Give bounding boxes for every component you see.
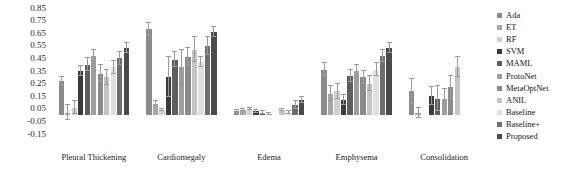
error-bar-cap	[455, 76, 460, 77]
error-bar-cap	[293, 100, 298, 101]
bar-maml-cardiomegaly	[172, 8, 177, 134]
legend-item-baseline: Baseline	[497, 107, 567, 119]
legend-item-label: ANIL	[506, 96, 526, 105]
legend-item-ada: Ada	[497, 9, 567, 21]
error-bar	[411, 79, 412, 104]
error-bar-cap	[328, 100, 333, 101]
bar-group-bars	[400, 8, 488, 134]
x-axis-group-label: Edema	[257, 152, 281, 162]
error-bar-cap	[153, 100, 158, 101]
error-bar	[437, 86, 438, 111]
bar-anil-pleural-thickening	[104, 8, 109, 134]
bar-rf-edema	[247, 8, 252, 134]
y-axis-tick-label: -0.15	[27, 130, 46, 139]
error-bar-cap	[65, 104, 70, 105]
bar-rect	[59, 81, 64, 115]
y-axis-tick-label: 0.35	[30, 67, 46, 76]
error-bar	[174, 52, 175, 67]
error-bar-cap	[166, 56, 171, 57]
error-bar-cap	[198, 56, 203, 57]
error-bar-cap	[322, 75, 327, 76]
error-bar-cap	[78, 75, 83, 76]
bar-anil-cardiomegaly	[192, 8, 197, 134]
bar-ada-consolidation	[409, 8, 414, 134]
legend-item-label: Baseline+	[506, 120, 540, 129]
bar-rect	[124, 48, 129, 115]
bar-rect	[386, 48, 391, 115]
error-bar-cap	[348, 81, 353, 82]
bar-rect	[321, 70, 326, 115]
error-bar-cap	[354, 64, 359, 65]
error-bar-cap	[185, 65, 190, 66]
y-axis-tick-label: 0.85	[30, 4, 46, 13]
y-axis-tick-label: 0.25	[30, 79, 46, 88]
bar-svm-edema	[253, 8, 258, 134]
error-bar-cap	[117, 51, 122, 52]
error-bar-cap	[429, 104, 434, 105]
legend-item-label: ET	[506, 23, 516, 32]
bar-group-bars	[313, 8, 401, 134]
error-bar-cap	[98, 81, 103, 82]
bar-maml-pleural-thickening	[85, 8, 90, 134]
bar-metaoptnet-pleural-thickening	[98, 8, 103, 134]
bar-rf-cardiomegaly	[159, 8, 164, 134]
error-bar-cap	[72, 113, 77, 114]
error-bar-cap	[367, 75, 372, 76]
bar-proposed-cardiomegaly	[211, 8, 216, 134]
legend-item-anil: ANIL	[497, 94, 567, 106]
bar-maml-consolidation	[435, 8, 440, 134]
legend-item-metaoptnet: MetaOptNet	[497, 82, 567, 94]
error-bar-cap	[124, 42, 129, 43]
error-bar-cap	[211, 36, 216, 37]
legend-color-swatch	[497, 37, 502, 42]
bar-proposed-emphysema	[386, 8, 391, 134]
y-axis-tick-label: 0.55	[30, 41, 46, 50]
error-bar-cap	[455, 56, 460, 57]
error-bar-cap	[361, 70, 366, 71]
bar-svm-consolidation	[429, 8, 434, 134]
error-bar	[194, 37, 195, 62]
legend-color-swatch	[497, 49, 502, 54]
legend-item-maml: MAML	[497, 58, 567, 70]
bar-rf-emphysema	[334, 8, 339, 134]
error-bar-cap	[387, 52, 392, 53]
bar-anil-edema	[279, 8, 284, 134]
bar-group: Pleural Thickening	[50, 8, 138, 160]
legend-color-swatch	[497, 98, 502, 103]
legend-color-swatch	[497, 61, 502, 66]
bar-protonet-edema	[266, 8, 271, 134]
bar-baseline-emphysema	[373, 8, 378, 134]
error-bar-cap	[85, 57, 90, 58]
legend-item-label: SVM	[506, 47, 524, 56]
bar-group-bars	[138, 8, 226, 134]
legend-item-proposed: Proposed	[497, 131, 567, 143]
error-bar	[369, 76, 370, 91]
error-bar-cap	[78, 65, 83, 66]
y-axis-tick-label: -0.05	[27, 117, 46, 126]
error-bar-cap	[72, 100, 77, 101]
error-bar-cap	[279, 110, 284, 111]
bar-rect	[205, 46, 210, 115]
bar-baseline-cardiomegaly	[198, 8, 203, 134]
bar-proposed-pleural-thickening	[124, 8, 129, 134]
bar-metaoptnet-consolidation	[448, 8, 453, 134]
error-bar	[450, 76, 451, 99]
bar-baselineplus-emphysema	[380, 8, 385, 134]
error-bar-cap	[205, 36, 210, 37]
legend: AdaETRFSVMMAMLProtoNetMetaOptNetANILBase…	[497, 9, 567, 143]
bar-rf-pleural-thickening	[72, 8, 77, 134]
error-bar-cap	[335, 83, 340, 84]
error-bar	[207, 37, 208, 55]
error-bar-cap	[380, 49, 385, 50]
error-bar-cap	[341, 104, 346, 105]
error-bar-cap	[146, 22, 151, 23]
error-bar-cap	[59, 84, 64, 85]
error-bar	[181, 50, 182, 85]
error-bar-cap	[104, 84, 109, 85]
legend-color-swatch	[497, 122, 502, 127]
y-axis-tick-label: 0.05	[30, 104, 46, 113]
error-bar-cap	[166, 96, 171, 97]
bar-svm-cardiomegaly	[166, 8, 171, 134]
error-bar-cap	[380, 61, 385, 62]
legend-color-swatch	[497, 13, 502, 18]
